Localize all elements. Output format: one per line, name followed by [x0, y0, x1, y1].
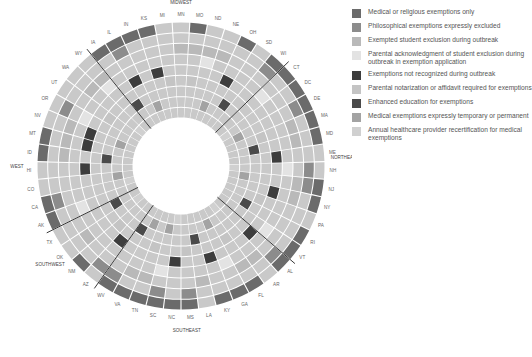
chart-cell	[194, 265, 208, 277]
chart-cell	[190, 23, 207, 35]
region-label: WEST	[10, 164, 23, 169]
legend-swatch	[352, 71, 361, 80]
state-label: VA	[115, 302, 122, 307]
chart-cell	[181, 288, 196, 299]
legend-item: Exempted student exclusion during outbre…	[352, 36, 532, 46]
state-label: AR	[273, 282, 280, 287]
legend-swatch	[352, 37, 361, 46]
chart-cell	[182, 299, 199, 310]
chart-cell	[175, 65, 187, 75]
chart-cell	[102, 154, 112, 163]
chart-cell	[145, 251, 158, 264]
legend-label: Philosophical exemptions expressly exclu…	[368, 22, 500, 30]
chart-cell	[39, 127, 52, 145]
chart-cell	[70, 163, 80, 176]
chart-cell	[169, 97, 177, 107]
chart-cell	[239, 172, 250, 181]
state-label: LA	[206, 313, 213, 318]
chart-cell	[159, 44, 174, 55]
state-label: MD	[326, 131, 334, 136]
state-label: NH	[330, 168, 337, 173]
chart-cell	[176, 87, 185, 97]
chart-cell	[301, 178, 313, 194]
state-label: WI	[281, 51, 287, 56]
chart-cell	[271, 151, 282, 163]
chart-cell	[49, 178, 61, 194]
chart-cell	[38, 179, 50, 196]
chart-cell	[168, 267, 181, 277]
state-label: WY	[75, 51, 82, 56]
chart-cell	[154, 77, 166, 89]
chart-cell	[191, 244, 202, 255]
legend-label: Parental acknowledgment of student exclu…	[368, 50, 532, 66]
chart-cell	[102, 173, 113, 183]
chart-cell	[281, 176, 292, 190]
legend-label: Parental notarization or affidavit requi…	[368, 84, 532, 92]
chart-cell	[159, 244, 170, 255]
chart-cell	[60, 133, 72, 148]
chart-cell	[181, 257, 193, 267]
chart-cell	[259, 142, 271, 154]
legend-item: Parental acknowledgment of student exclu…	[352, 50, 532, 66]
chart-cell	[279, 136, 291, 150]
state-label: RI	[310, 240, 315, 245]
state-label: PA	[318, 223, 325, 228]
chart-cell	[177, 97, 185, 107]
chart-cell	[282, 163, 292, 176]
chart-cell	[163, 65, 175, 76]
chart-cell	[272, 163, 282, 175]
state-label: NJ	[328, 187, 334, 192]
chart-cell	[229, 157, 239, 164]
chart-cell	[200, 56, 214, 68]
state-label: CT	[293, 65, 299, 70]
chart-cell	[312, 179, 324, 196]
state-label: NM	[68, 269, 75, 274]
legend-item: Medical or religious exemptions only	[352, 8, 532, 18]
chart-cell	[198, 67, 211, 79]
region-label: MIDWEST	[170, 0, 192, 5]
chart-cell	[240, 156, 250, 164]
chart-cell	[188, 55, 201, 66]
chart-cell	[250, 154, 260, 163]
legend-item: Annual healthcare provider recertificati…	[352, 126, 532, 142]
chart-cell	[303, 146, 314, 162]
chart-cell	[151, 67, 164, 79]
chart-cell	[282, 149, 293, 162]
legend-swatch	[352, 113, 361, 122]
chart-cell	[181, 278, 195, 288]
chart-cell	[170, 246, 180, 256]
state-label: OH	[249, 30, 256, 35]
state-label: ME	[329, 150, 336, 155]
chart-cell	[240, 164, 250, 172]
chart-cell	[190, 234, 200, 245]
state-label: FL	[258, 293, 264, 298]
legend-swatch	[352, 85, 361, 94]
chart-cell	[102, 164, 112, 173]
legend-swatch	[352, 9, 361, 18]
state-label: IA	[91, 40, 96, 45]
region-label: NORTHEAST	[331, 155, 352, 160]
state-label: DC	[304, 80, 311, 85]
legend-item: Parental notarization or affidavit requi…	[352, 84, 532, 94]
chart-cell	[184, 108, 191, 118]
chart-cell	[70, 176, 81, 190]
state-label: MT	[29, 131, 36, 136]
chart-cell	[204, 36, 221, 49]
state-label: TX	[46, 240, 52, 245]
state-label: MI	[160, 13, 165, 18]
state-label: WV	[97, 293, 105, 298]
chart-cell	[291, 177, 303, 192]
chart-cell	[181, 235, 190, 245]
chart-cell	[165, 76, 176, 87]
chart-cell	[38, 162, 48, 179]
chart-cell	[81, 175, 92, 187]
region-label: SOUTHEAST	[173, 328, 201, 333]
state-label: GA	[241, 302, 249, 307]
chart-cell	[112, 156, 122, 164]
state-label: MO	[196, 13, 204, 18]
chart-cell	[162, 234, 172, 245]
chart-cell	[91, 174, 102, 185]
chart-cell	[300, 130, 313, 146]
chart-cell	[270, 175, 281, 187]
chart-cell	[198, 296, 215, 308]
